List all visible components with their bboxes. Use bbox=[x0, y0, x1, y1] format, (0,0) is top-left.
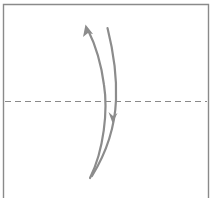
fold-diagram bbox=[0, 0, 213, 198]
